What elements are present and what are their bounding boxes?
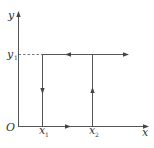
y1-subscript: 1 xyxy=(14,54,18,61)
x2-subscript: 2 xyxy=(95,131,99,138)
origin-label: O xyxy=(6,121,15,134)
y1-label: y xyxy=(6,48,14,61)
diagram-canvas: y x O y 1 x 1 x 2 xyxy=(0,0,154,148)
y-axis-label: y xyxy=(7,9,15,22)
x1-subscript: 1 xyxy=(45,131,49,138)
x-axis-label: x xyxy=(142,126,149,139)
